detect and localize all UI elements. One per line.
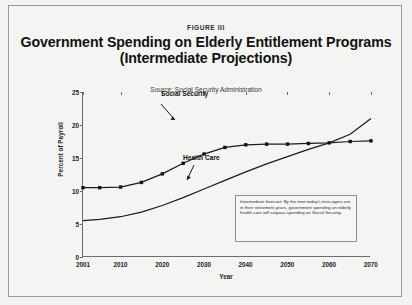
data-point-marker: [369, 139, 372, 142]
annotation-arrows: [161, 104, 194, 180]
annotation-health-care: Health Care: [183, 154, 220, 161]
x-axis-title: Year: [82, 273, 370, 280]
figure-number-label: FIGURE III: [9, 24, 403, 31]
y-tick-mark: [80, 257, 83, 258]
data-point-marker: [140, 181, 143, 184]
plot-area: 0 5 10 15 20 25 2001 2010 2020 2030 2040…: [82, 92, 370, 257]
data-point-marker: [244, 143, 247, 146]
social-security-line: [83, 141, 371, 188]
data-point-marker: [223, 146, 226, 149]
x-tick-label-2010: 2010: [113, 261, 127, 268]
x-tick-label-2040: 2040: [239, 261, 253, 268]
annotation-social-security: Social Security: [161, 90, 208, 97]
data-point-marker: [328, 141, 331, 144]
data-point-marker: [286, 142, 289, 145]
chart-title: Government Spending on Elderly Entitleme…: [9, 35, 403, 66]
x-tick-label-2001: 2001: [76, 261, 90, 268]
data-point-marker: [348, 140, 351, 143]
data-point-marker: [98, 186, 101, 189]
data-point-marker: [81, 186, 84, 189]
y-tick-label-5: 5: [75, 221, 79, 228]
y-tick-label-10: 10: [72, 188, 79, 195]
x-tick-label-2020: 2020: [155, 261, 169, 268]
data-point-marker: [307, 142, 310, 145]
data-point-marker: [119, 185, 122, 188]
x-tick-label-2030: 2030: [197, 261, 211, 268]
y-tick-label-15: 15: [72, 155, 79, 162]
x-tick-label-2050: 2050: [280, 261, 294, 268]
plot-wrapper: Percent of Payroll 0 5 10 15 20 25 2001 …: [27, 88, 387, 283]
data-point-marker: [161, 172, 164, 175]
data-point-marker: [181, 162, 184, 165]
chart-title-line-1: Government Spending on Elderly Entitleme…: [21, 34, 392, 50]
y-tick-label-25: 25: [72, 89, 79, 96]
figure-frame: FIGURE III Government Spending on Elderl…: [8, 5, 402, 297]
data-point-marker: [265, 142, 268, 145]
chart-title-line-2: (Intermediate Projections): [9, 51, 403, 67]
x-tick-label-2070: 2070: [364, 261, 378, 268]
callout-textbox: Intermediate forecast: By the time today…: [235, 195, 357, 242]
y-axis-title: Percent of Payroll: [57, 115, 64, 185]
x-tick-label-2060: 2060: [322, 261, 336, 268]
y-tick-label-20: 20: [72, 122, 79, 129]
y-tick-label-0: 0: [75, 254, 79, 261]
